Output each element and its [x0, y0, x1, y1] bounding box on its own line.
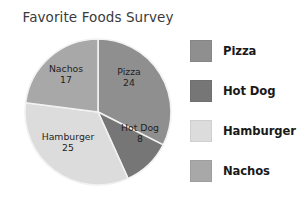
legend-swatch-pizza: [190, 40, 212, 62]
pie-slices: [25, 39, 171, 185]
pie-svg: [0, 0, 196, 215]
pie-chart-figure: Favorite Foods Survey Pizza24Hot Dog8Ham…: [0, 0, 306, 215]
legend-item-hot-dog[interactable]: Hot Dog: [190, 80, 275, 102]
chart-legend: PizzaHot DogHamburgerNachos: [190, 40, 306, 200]
legend-item-nachos[interactable]: Nachos: [190, 160, 270, 182]
legend-label-nachos: Nachos: [223, 164, 270, 178]
legend-item-hamburger[interactable]: Hamburger: [190, 120, 296, 142]
pie-slice-nachos[interactable]: [26, 39, 98, 112]
legend-label-hot-dog: Hot Dog: [223, 84, 275, 98]
legend-label-hamburger: Hamburger: [223, 124, 296, 138]
pie-plot-area: Pizza24Hot Dog8Hamburger25Nachos17: [0, 0, 196, 215]
legend-swatch-hot-dog: [190, 80, 212, 102]
legend-item-pizza[interactable]: Pizza: [190, 40, 256, 62]
legend-label-pizza: Pizza: [223, 44, 256, 58]
legend-swatch-nachos: [190, 160, 212, 182]
legend-swatch-hamburger: [190, 120, 212, 142]
